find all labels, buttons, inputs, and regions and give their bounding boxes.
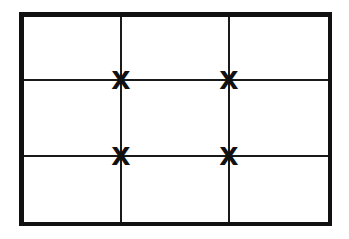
marker-top-left-third: X <box>111 68 130 93</box>
marker-top-right-third: X <box>219 68 238 93</box>
marker-bottom-right-third: X <box>219 144 238 169</box>
diagram-background <box>0 0 349 239</box>
marker-bottom-left-third: X <box>111 144 130 169</box>
grid-svg <box>0 0 349 239</box>
rule-of-thirds-diagram: X X X X <box>0 0 349 239</box>
